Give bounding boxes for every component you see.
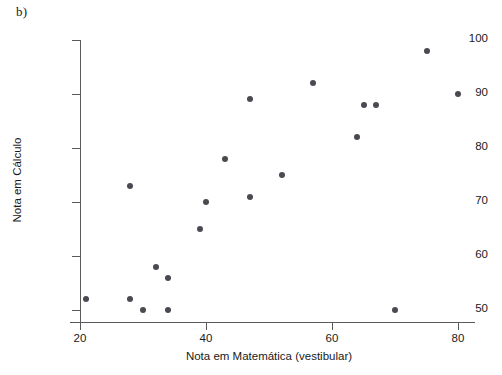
data-point [247, 194, 253, 200]
data-point [424, 48, 430, 54]
y-tick-label-80: 80 [454, 140, 488, 152]
data-point [83, 296, 89, 302]
y-tick-label-100: 100 [454, 32, 488, 44]
data-point [455, 91, 461, 97]
x-tick-label-40: 40 [186, 332, 226, 344]
x-tick-80 [458, 322, 459, 330]
data-point [222, 156, 228, 162]
data-point [127, 183, 133, 189]
y-tick-90 [72, 94, 80, 95]
y-tick-100 [72, 40, 80, 41]
data-point [165, 275, 171, 281]
y-axis-title: Nota em Cálculo [11, 120, 23, 240]
data-point [203, 199, 209, 205]
y-tick-70 [72, 202, 80, 203]
y-tick-80 [72, 148, 80, 149]
x-axis-line [70, 322, 475, 323]
data-point [127, 296, 133, 302]
x-tick-label-80: 80 [438, 332, 478, 344]
data-point [373, 102, 379, 108]
data-point [279, 172, 285, 178]
data-point [140, 307, 146, 313]
x-tick-label-20: 20 [60, 332, 100, 344]
x-tick-60 [332, 322, 333, 330]
data-point [310, 80, 316, 86]
data-point [354, 134, 360, 140]
x-tick-40 [206, 322, 207, 330]
y-tick-label-50: 50 [454, 302, 488, 314]
y-tick-50 [72, 310, 80, 311]
data-point [153, 264, 159, 270]
x-axis-title: Nota em Matemática (vestibular) [80, 350, 458, 362]
data-point [165, 307, 171, 313]
data-point [392, 307, 398, 313]
y-tick-label-60: 60 [454, 248, 488, 260]
data-point [361, 102, 367, 108]
data-point [197, 226, 203, 232]
y-tick-label-70: 70 [454, 194, 488, 206]
x-tick-label-60: 60 [312, 332, 352, 344]
y-axis-line [80, 40, 81, 323]
scatter-plot: 5060708090100 20406080 Nota em Matemátic… [0, 0, 502, 375]
x-tick-20 [80, 322, 81, 330]
data-point [247, 96, 253, 102]
y-tick-60 [72, 256, 80, 257]
